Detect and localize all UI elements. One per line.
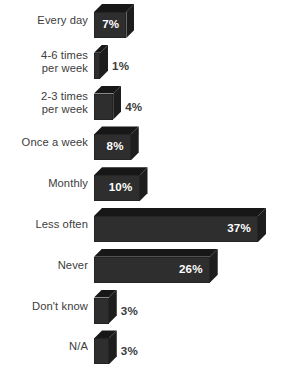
chart-row: N/A3%	[0, 327, 284, 367]
value-label: 7%	[102, 11, 119, 37]
chart-row: 4-6 times per week1%	[0, 42, 284, 82]
bar-front-face: 7%	[94, 12, 126, 38]
category-label: Monthly	[0, 178, 88, 191]
chart-row: Monthly10%	[0, 164, 284, 204]
bar-front-face: 8%	[94, 134, 131, 160]
category-label: N/A	[0, 341, 88, 354]
chart-row: Less often37%	[0, 205, 284, 245]
bar: 3%	[94, 290, 117, 324]
category-label: Less often	[0, 218, 88, 231]
bar: 26%	[94, 249, 218, 283]
value-label: 26%	[179, 256, 203, 282]
bar-front-face: 10%	[94, 175, 140, 201]
chart-row: Never26%	[0, 246, 284, 286]
bar-front-face	[94, 94, 113, 120]
bar: 4%	[94, 86, 121, 120]
category-label: Don't know	[0, 300, 88, 313]
bar: 37%	[94, 208, 266, 242]
bar-front-face	[94, 338, 109, 364]
category-label: 2-3 times per week	[0, 89, 88, 115]
bar-front-face: 26%	[94, 257, 210, 283]
chart-row: Don't know3%	[0, 287, 284, 327]
bar: 3%	[94, 330, 117, 364]
value-label: 1%	[112, 53, 129, 79]
value-label: 8%	[107, 133, 124, 159]
bar: 8%	[94, 126, 139, 160]
category-label: 4-6 times per week	[0, 49, 88, 75]
bar-front-face	[94, 53, 100, 79]
bar: 1%	[94, 45, 108, 79]
value-label: 37%	[227, 215, 251, 241]
category-label: Once a week	[0, 137, 88, 150]
value-label: 3%	[121, 298, 138, 324]
category-label: Never	[0, 259, 88, 272]
value-label: 4%	[125, 94, 142, 120]
bar-chart: Every day7%4-6 times per week1%2-3 times…	[0, 0, 284, 368]
bar-front-face: 37%	[94, 216, 258, 242]
chart-row: Once a week8%	[0, 123, 284, 163]
value-label: 10%	[109, 174, 133, 200]
value-label: 3%	[121, 338, 138, 364]
chart-row: Every day7%	[0, 1, 284, 41]
category-label: Every day	[0, 14, 88, 27]
chart-row: 2-3 times per week4%	[0, 83, 284, 123]
bar-front-face	[94, 298, 109, 324]
bar: 7%	[94, 4, 134, 38]
bar: 10%	[94, 167, 148, 201]
